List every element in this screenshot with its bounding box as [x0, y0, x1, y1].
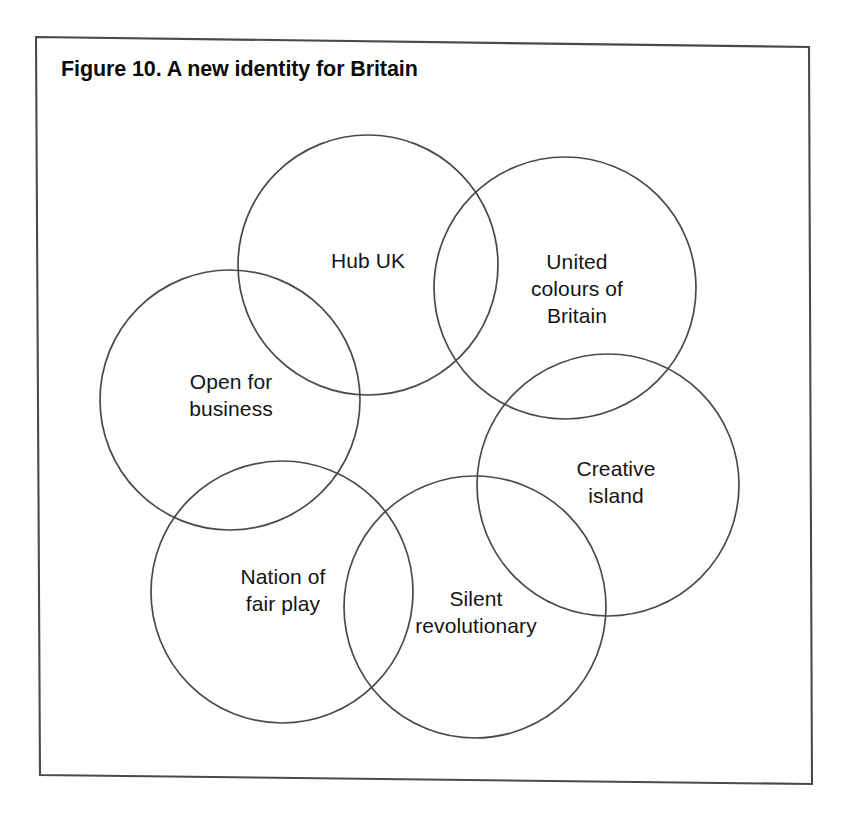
- figure-frame: [0, 0, 851, 833]
- venn-label-united-colours-of-britain: United colours of Britain: [531, 248, 623, 329]
- figure-page: Figure 10. A new identity for Britain Hu…: [0, 0, 851, 833]
- figure-title: Figure 10. A new identity for Britain: [61, 57, 418, 82]
- venn-label-creative-island: Creative island: [577, 455, 656, 509]
- venn-label-open-for-business: Open for business: [189, 368, 273, 422]
- venn-label-silent-revolutionary: Silent revolutionary: [415, 585, 537, 639]
- figure-border: [36, 37, 812, 784]
- venn-label-nation-of-fair-play: Nation of fair play: [241, 563, 326, 617]
- venn-label-hub-uk: Hub UK: [331, 247, 405, 274]
